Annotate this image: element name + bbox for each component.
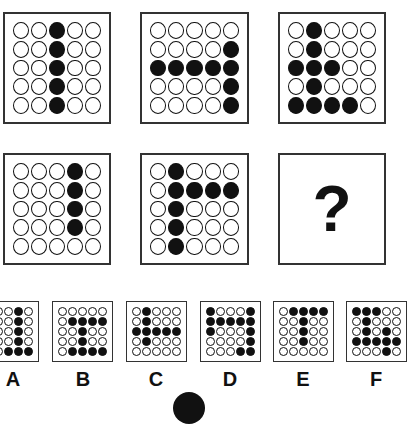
empty-dot <box>98 327 107 336</box>
empty-dot <box>4 307 13 316</box>
empty-dot <box>0 337 3 346</box>
dot-grid <box>150 163 239 255</box>
dot-grid <box>279 307 328 356</box>
empty-dot <box>78 307 87 316</box>
empty-dot <box>4 337 13 346</box>
empty-dot <box>24 307 33 316</box>
empty-dot <box>31 238 47 255</box>
filled-dot <box>68 317 77 326</box>
filled-dot <box>162 327 171 336</box>
filled-dot <box>382 337 391 346</box>
filled-dot <box>49 78 65 95</box>
option-b[interactable] <box>52 301 113 362</box>
empty-dot <box>162 317 171 326</box>
empty-dot <box>67 22 83 39</box>
dot-grid <box>0 307 33 356</box>
filled-dot <box>168 201 184 218</box>
empty-dot <box>98 307 107 316</box>
empty-dot <box>0 347 3 356</box>
option-e[interactable] <box>273 301 334 362</box>
empty-dot <box>372 327 381 336</box>
dot-grid <box>150 22 239 114</box>
empty-dot <box>58 347 67 356</box>
empty-dot <box>67 78 83 95</box>
empty-dot <box>236 307 245 316</box>
empty-dot <box>216 307 225 316</box>
filled-dot <box>14 347 23 356</box>
empty-dot <box>152 317 161 326</box>
filled-dot <box>288 97 304 114</box>
filled-dot <box>306 22 322 39</box>
dot-grid <box>206 307 255 356</box>
option-d[interactable] <box>200 301 261 362</box>
filled-dot <box>216 317 225 326</box>
filled-dot <box>78 337 87 346</box>
empty-dot <box>67 238 83 255</box>
filled-dot <box>206 327 215 336</box>
empty-dot <box>31 41 47 58</box>
empty-dot <box>186 78 202 95</box>
empty-dot <box>0 307 3 316</box>
empty-dot <box>168 97 184 114</box>
option-c[interactable] <box>126 301 187 362</box>
empty-dot <box>223 219 239 236</box>
dot-grid <box>288 22 376 114</box>
filled-dot <box>68 347 77 356</box>
empty-dot <box>31 182 47 199</box>
filled-dot <box>98 347 107 356</box>
empty-dot <box>226 337 235 346</box>
empty-dot <box>132 337 141 346</box>
empty-dot <box>382 307 391 316</box>
empty-dot <box>324 41 340 58</box>
option-a[interactable] <box>0 301 39 362</box>
empty-dot <box>319 317 328 326</box>
filled-dot <box>352 337 361 346</box>
empty-dot <box>85 163 101 180</box>
filled-dot <box>352 307 361 316</box>
empty-dot <box>186 41 202 58</box>
filled-dot <box>223 78 239 95</box>
empty-dot <box>288 78 304 95</box>
matrix-panel-5 <box>140 153 249 265</box>
filled-dot <box>299 307 308 316</box>
empty-dot <box>24 317 33 326</box>
empty-dot <box>360 97 376 114</box>
empty-dot <box>172 317 181 326</box>
empty-dot <box>168 22 184 39</box>
empty-dot <box>382 317 391 326</box>
empty-dot <box>24 337 33 346</box>
filled-dot <box>205 60 221 77</box>
empty-dot <box>85 41 101 58</box>
empty-dot <box>205 201 221 218</box>
empty-dot <box>85 78 101 95</box>
empty-dot <box>150 78 166 95</box>
empty-dot <box>342 22 358 39</box>
filled-dot <box>186 60 202 77</box>
filled-dot <box>152 327 161 336</box>
filled-dot <box>67 182 83 199</box>
empty-dot <box>360 78 376 95</box>
empty-dot <box>186 22 202 39</box>
filled-dot <box>223 41 239 58</box>
empty-dot <box>152 307 161 316</box>
filled-dot <box>205 182 221 199</box>
empty-dot <box>31 22 47 39</box>
filled-dot <box>392 337 401 346</box>
empty-dot <box>226 327 235 336</box>
option-f[interactable] <box>346 301 407 362</box>
empty-dot <box>168 78 184 95</box>
filled-dot <box>246 347 255 356</box>
filled-dot <box>362 327 371 336</box>
empty-dot <box>186 201 202 218</box>
empty-dot <box>88 337 97 346</box>
filled-dot <box>24 347 33 356</box>
empty-dot <box>150 97 166 114</box>
empty-dot <box>13 78 29 95</box>
empty-dot <box>13 238 29 255</box>
empty-dot <box>150 238 166 255</box>
empty-dot <box>216 327 225 336</box>
empty-dot <box>289 317 298 326</box>
filled-dot <box>223 182 239 199</box>
empty-dot <box>186 97 202 114</box>
filled-dot <box>168 182 184 199</box>
